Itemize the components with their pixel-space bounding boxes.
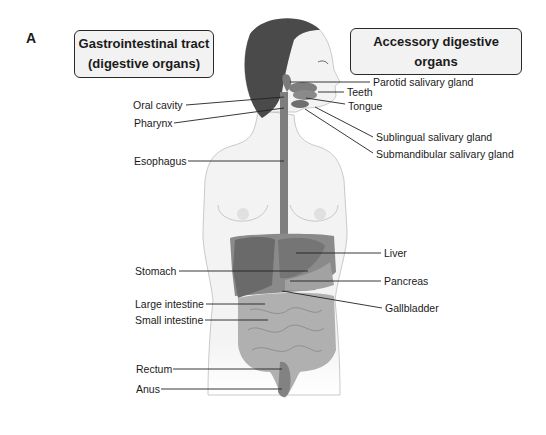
label-teeth: Teeth bbox=[347, 86, 373, 98]
label-rectum: Rectum bbox=[136, 363, 172, 375]
label-large-intestine: Large intestine bbox=[135, 298, 204, 310]
label-liver: Liver bbox=[384, 247, 407, 259]
label-small-intestine: Small intestine bbox=[135, 314, 203, 326]
label-tongue: Tongue bbox=[348, 100, 382, 112]
label-gallbladder: Gallbladder bbox=[385, 302, 439, 314]
label-submandibular-salivary-gland: Submandibular salivary gland bbox=[376, 148, 514, 160]
esophagus-tube bbox=[280, 92, 288, 242]
label-stomach: Stomach bbox=[135, 265, 176, 277]
label-pancreas: Pancreas bbox=[384, 275, 428, 287]
anatomy-figure bbox=[0, 0, 546, 435]
label-pharynx: Pharynx bbox=[134, 117, 173, 129]
label-oral-cavity: Oral cavity bbox=[133, 99, 183, 111]
label-parotid-salivary-gland: Parotid salivary gland bbox=[373, 76, 473, 88]
label-sublingual-salivary-gland: Sublingual salivary gland bbox=[376, 131, 492, 143]
label-anus: Anus bbox=[136, 383, 160, 395]
label-esophagus: Esophagus bbox=[134, 155, 187, 167]
